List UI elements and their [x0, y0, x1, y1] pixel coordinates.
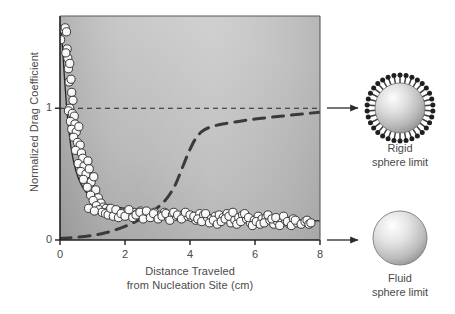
rigid-sphere-spike-tip — [430, 109, 435, 114]
x-axis-label-line-2: from Nucleation Site (cm) — [60, 278, 320, 292]
x-tick-label: 8 — [300, 248, 340, 260]
rigid-sphere-spike-tip — [398, 73, 403, 78]
rigid-sphere-spike-tip — [424, 86, 429, 91]
x-axis-label-line-1: Distance Traveled — [60, 264, 320, 278]
x-tick-label: 2 — [105, 248, 145, 260]
data-point — [79, 175, 87, 183]
rigid-sphere-spike-tip — [366, 96, 371, 101]
data-point — [84, 157, 92, 165]
data-point — [125, 206, 133, 214]
rigid-sphere-spike-tip — [380, 134, 385, 139]
y-tick-label: 0 — [14, 233, 52, 245]
data-point — [85, 165, 93, 173]
x-tick-label: 0 — [40, 248, 80, 260]
rigid-sphere-spike-tip — [375, 130, 380, 135]
rigid-sphere-body — [375, 83, 425, 133]
data-point — [90, 173, 98, 181]
data-point — [90, 207, 98, 215]
rigid-sphere-spike-tip — [404, 73, 409, 78]
rigid-sphere-spike-tip — [365, 109, 370, 114]
data-point — [83, 183, 91, 191]
rigid-sphere-spike-tip — [366, 115, 371, 120]
rigid-sphere-spike-tip — [368, 91, 373, 96]
rigid-sphere-spike-tip — [415, 134, 420, 139]
rigid-sphere-caption-line-2: sphere limit — [345, 155, 455, 169]
rigid-sphere-spike-tip — [368, 120, 373, 125]
rigid-sphere-spike-tip — [380, 77, 385, 82]
rigid-sphere-caption-line-1: Rigid — [345, 141, 455, 155]
data-point — [75, 123, 83, 131]
rigid-sphere-spike-tip — [429, 96, 434, 101]
rigid-sphere-spike-tip — [420, 130, 425, 135]
rigid-sphere-spike-tip — [391, 73, 396, 78]
data-point — [66, 59, 74, 67]
annotation-arrows — [327, 108, 358, 240]
x-axis-label: Distance Traveled from Nucleation Site (… — [60, 264, 320, 292]
x-tick-label: 6 — [235, 248, 275, 260]
rigid-sphere-spike-tip — [420, 81, 425, 86]
y-tick-label: 1 — [14, 101, 52, 113]
fluid-sphere-body — [373, 211, 427, 265]
rigid-sphere-spike-tip — [371, 86, 376, 91]
rigid-sphere-spike-tip — [409, 75, 414, 80]
data-point — [68, 88, 76, 96]
data-point — [62, 49, 70, 57]
y-axis-label: Normalized Drag Coefficient — [28, 22, 40, 222]
rigid-sphere-spike-tip — [427, 91, 432, 96]
data-point — [69, 96, 77, 104]
rigid-sphere-spike-tip — [430, 102, 435, 107]
rigid-sphere-illustration — [365, 73, 436, 144]
rigid-sphere-spike-tip — [424, 125, 429, 130]
rigid-sphere-spike-tip — [415, 77, 420, 82]
x-tick-label: 4 — [170, 248, 210, 260]
data-point — [62, 28, 70, 36]
rigid-sphere-spike-tip — [375, 81, 380, 86]
rigid-sphere-spike-tip — [427, 120, 432, 125]
fluid-sphere-caption: Fluid sphere limit — [345, 271, 455, 299]
fluid-sphere-illustration — [373, 211, 427, 265]
rigid-sphere-spike-tip — [386, 75, 391, 80]
fluid-sphere-caption-line-1: Fluid — [345, 271, 455, 285]
rigid-sphere-spike-tip — [365, 102, 370, 107]
rigid-sphere-spike-tip — [371, 125, 376, 130]
rigid-sphere-caption: Rigid sphere limit — [345, 141, 455, 169]
fluid-sphere-caption-line-2: sphere limit — [345, 285, 455, 299]
rigid-sphere-spike-tip — [429, 115, 434, 120]
data-point — [307, 219, 315, 227]
data-point — [67, 75, 75, 83]
